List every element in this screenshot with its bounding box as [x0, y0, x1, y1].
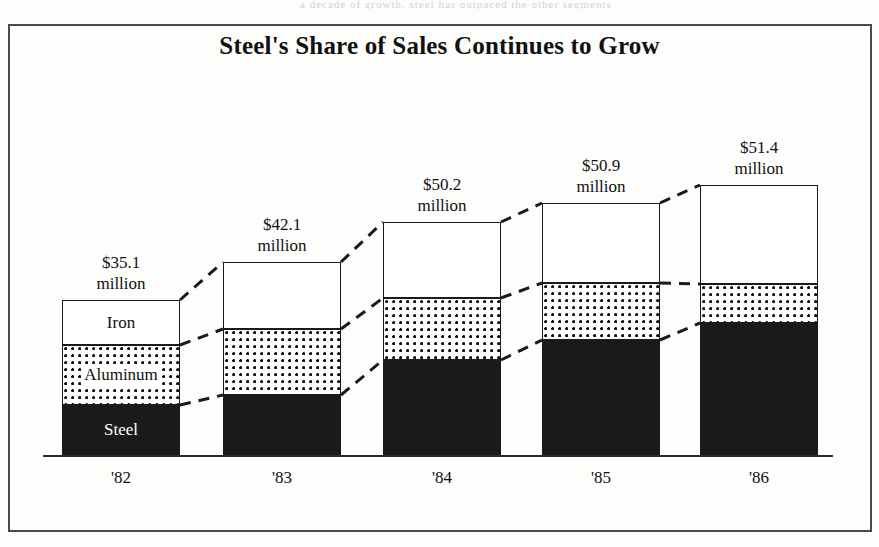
value-unit-84: million	[383, 195, 501, 216]
value-label-84: $50.2 million	[383, 174, 501, 216]
bar-85-segment-iron[interactable]	[542, 203, 660, 283]
bar-83-segment-iron[interactable]	[223, 262, 341, 329]
bar-83-segment-steel[interactable]	[223, 395, 341, 455]
chart-screenshot: a decade of growth, steel has outpaced t…	[0, 0, 879, 547]
bar-82-segment-steel[interactable]: Steel	[62, 405, 180, 455]
x-tick-label-86: '86	[700, 468, 818, 488]
value-amount-86: $51.4	[700, 137, 818, 158]
segment-label-aluminum: Aluminum	[81, 365, 161, 385]
value-amount-83: $42.1	[223, 214, 341, 235]
value-unit-85: million	[542, 176, 660, 197]
segment-label-steel: Steel	[101, 420, 141, 440]
value-label-86: $51.4 million	[700, 137, 818, 179]
plot-area: Iron Aluminum Steel $35.1 million	[0, 0, 879, 547]
bar-83-segment-aluminum[interactable]	[223, 329, 341, 395]
value-unit-86: million	[700, 158, 818, 179]
x-tick-label-85: '85	[542, 468, 660, 488]
bar-84-segment-iron[interactable]	[383, 222, 501, 298]
bar-85-segment-aluminum[interactable]	[542, 283, 660, 340]
value-label-83: $42.1 million	[223, 214, 341, 256]
bar-82-segment-aluminum[interactable]: Aluminum	[62, 345, 180, 405]
value-amount-85: $50.9	[542, 155, 660, 176]
x-tick-label-84: '84	[383, 468, 501, 488]
segment-label-iron: Iron	[104, 313, 138, 333]
x-axis-line	[43, 455, 833, 457]
x-tick-label-83: '83	[223, 468, 341, 488]
value-unit-83: million	[223, 235, 341, 256]
bar-85-segment-steel[interactable]	[542, 340, 660, 455]
x-tick-label-82: '82	[62, 468, 180, 488]
bar-84[interactable]	[383, 222, 501, 455]
bar-84-segment-aluminum[interactable]	[383, 298, 501, 360]
value-label-82: $35.1 million	[62, 252, 180, 294]
value-amount-84: $50.2	[383, 174, 501, 195]
bar-82-segment-iron[interactable]: Iron	[62, 300, 180, 345]
bar-84-segment-steel[interactable]	[383, 360, 501, 455]
value-label-85: $50.9 million	[542, 155, 660, 197]
bar-86-segment-iron[interactable]	[700, 185, 818, 284]
value-amount-82: $35.1	[62, 252, 180, 273]
bar-86-segment-aluminum[interactable]	[700, 284, 818, 323]
bar-83[interactable]	[223, 262, 341, 455]
bar-82[interactable]: Iron Aluminum Steel	[62, 300, 180, 455]
bar-86[interactable]	[700, 185, 818, 455]
bar-85[interactable]	[542, 203, 660, 455]
bar-86-segment-steel[interactable]	[700, 323, 818, 455]
value-unit-82: million	[62, 273, 180, 294]
